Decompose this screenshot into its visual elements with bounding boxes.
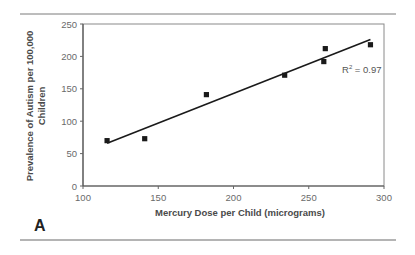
data-point <box>142 136 147 141</box>
y-tick-label: 0 <box>72 181 77 192</box>
x-tick-label: 200 <box>226 192 242 203</box>
data-point <box>368 42 373 47</box>
plot-frame <box>83 24 384 186</box>
scatter-chart: 050100150200250 100150200250300 R2 = 0.9… <box>0 0 415 255</box>
y-axis-title-line2: Children <box>36 87 47 126</box>
x-axis-ticks: 100150200250300 <box>75 186 392 203</box>
r-squared-annotation: R2 = 0.97 <box>342 64 382 75</box>
panel-label: A <box>34 217 46 234</box>
y-tick-label: 50 <box>66 148 77 159</box>
x-tick-label: 250 <box>301 192 317 203</box>
x-tick-label: 150 <box>150 192 166 203</box>
y-tick-label: 100 <box>61 116 77 127</box>
data-point <box>323 46 328 51</box>
y-tick-label: 150 <box>61 83 77 94</box>
data-point <box>104 138 109 143</box>
x-tick-label: 100 <box>75 192 91 203</box>
data-point <box>321 59 326 64</box>
x-tick-label: 300 <box>376 192 392 203</box>
y-axis-ticks: 050100150200250 <box>61 19 83 192</box>
trendline-group <box>107 40 370 144</box>
x-axis-title: Mercury Dose per Child (micrograms) <box>155 207 325 218</box>
y-tick-label: 200 <box>61 51 77 62</box>
y-tick-label: 250 <box>61 19 77 30</box>
y-axis-title-line1: Prevalence of Autism per 100,000 <box>24 31 35 182</box>
plot-area-border <box>83 24 384 186</box>
data-point <box>282 73 287 78</box>
trendline <box>107 40 370 144</box>
y-axis-title: Prevalence of Autism per 100,000 Childre… <box>24 31 47 182</box>
data-point <box>204 92 209 97</box>
